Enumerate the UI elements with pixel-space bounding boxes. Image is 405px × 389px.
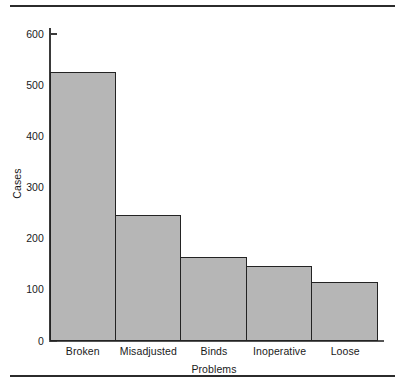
x-axis-tick-label: Loose <box>312 345 378 357</box>
bottom-horizontal-rule <box>10 375 395 377</box>
bar[interactable] <box>114 215 181 341</box>
y-axis-tick-label: 0 <box>0 336 44 347</box>
bar[interactable] <box>245 266 312 341</box>
x-axis-tick-labels: BrokenMisadjustedBindsInoperativeLoose <box>50 345 378 361</box>
plot-area <box>50 34 378 341</box>
y-axis-tick-label: 200 <box>0 233 44 244</box>
bar[interactable] <box>311 282 378 341</box>
x-axis-tick-label: Misadjusted <box>116 345 182 357</box>
bars-layer <box>50 34 378 341</box>
x-axis-title: Problems <box>50 364 378 375</box>
x-axis-tick-label: Broken <box>50 345 116 357</box>
top-horizontal-rule <box>10 5 395 7</box>
y-axis-tick-label: 100 <box>0 284 44 295</box>
bar-chart-figure: 0100200300400500600 BrokenMisadjustedBin… <box>0 0 405 389</box>
bar[interactable] <box>180 257 247 341</box>
y-axis-tick-label: 500 <box>0 80 44 91</box>
bar[interactable] <box>50 72 116 341</box>
x-axis-tick-label: Binds <box>181 345 247 357</box>
y-axis-tick-label: 400 <box>0 131 44 142</box>
y-axis-title: Cases <box>12 154 23 214</box>
x-axis-tick-label: Inoperative <box>247 345 313 357</box>
y-axis-tick-label: 600 <box>0 29 44 40</box>
